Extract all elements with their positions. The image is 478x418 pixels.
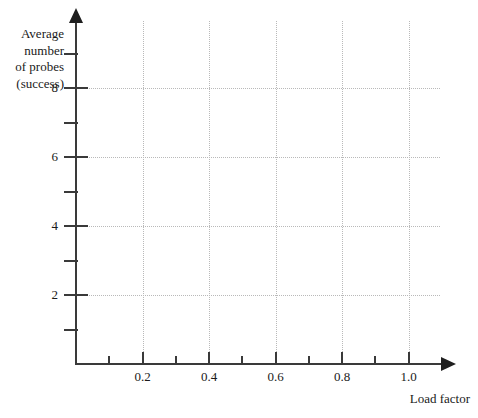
x-axis-tick-label: 0.8	[334, 370, 350, 383]
grid-line-vertical	[342, 21, 343, 364]
x-axis-tick-major	[341, 352, 343, 365]
y-axis-title: Averagenumberof probes(success)	[0, 26, 64, 92]
x-axis-line	[75, 363, 445, 365]
chart-figure: 24680.20.40.60.81.0 Averagenumberof prob…	[0, 0, 478, 418]
x-axis-tick-minor	[374, 356, 376, 365]
y-axis-tick-label-text: 2	[52, 288, 59, 301]
y-axis-tick-label-text: 4	[52, 219, 59, 232]
x-axis-tick-label: 0.6	[267, 370, 283, 383]
y-axis-tick-minor	[64, 122, 78, 124]
x-axis-tick-minor	[308, 356, 310, 365]
y-axis-tick-minor	[64, 53, 78, 55]
grid-line-horizontal	[76, 88, 440, 89]
grid-line-vertical	[409, 21, 410, 364]
y-axis-tick-minor	[64, 191, 78, 193]
y-axis-tick-major	[64, 225, 88, 227]
grid-line-vertical	[143, 21, 144, 364]
x-axis-title-label: Load factor	[410, 391, 470, 406]
y-axis-line	[75, 20, 77, 365]
x-axis-tick-label: 0.4	[201, 370, 217, 383]
grid-line-horizontal	[76, 226, 440, 227]
y-axis-tick-major	[64, 294, 88, 296]
y-axis-tick-minor	[64, 260, 78, 262]
y-axis-arrow-icon	[69, 8, 83, 23]
x-axis-tick-major	[208, 352, 210, 365]
x-axis-arrow-icon	[441, 357, 456, 371]
x-axis-title: Load factor	[0, 392, 470, 405]
y-axis-title-line: of probes	[0, 59, 64, 76]
grid-line-horizontal	[76, 295, 440, 296]
y-axis-tick-minor	[64, 329, 78, 331]
x-axis-tick-major	[142, 352, 144, 365]
grid-line-horizontal	[76, 157, 440, 158]
x-axis-tick-label: 1.0	[400, 370, 416, 383]
y-axis-title-line: (success)	[0, 76, 64, 93]
x-axis-tick-major	[275, 352, 277, 365]
x-axis-tick-major	[408, 352, 410, 365]
x-axis-tick-minor	[175, 356, 177, 365]
y-axis-title-line: number	[0, 43, 64, 60]
x-axis-tick-minor	[241, 356, 243, 365]
grid-line-vertical	[209, 21, 210, 364]
y-axis-title-line: Average	[0, 26, 64, 43]
y-axis-tick-major	[64, 87, 88, 89]
y-axis-tick-label-text: 6	[52, 150, 59, 163]
x-axis-tick-minor	[108, 356, 110, 365]
grid-line-vertical	[276, 21, 277, 364]
y-axis-tick-major	[64, 156, 88, 158]
x-axis-tick-label: 0.2	[134, 370, 150, 383]
